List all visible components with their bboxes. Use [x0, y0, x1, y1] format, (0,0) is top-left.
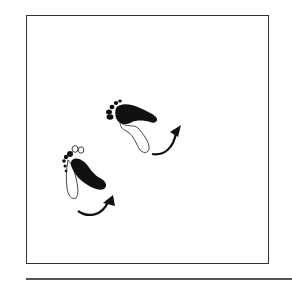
lower-rotation-arrow-icon — [78, 195, 115, 215]
upper-toe-4 — [114, 101, 118, 105]
upper-footprint — [106, 99, 157, 152]
upper-foot-outline — [120, 122, 149, 153]
horizontal-rule — [26, 278, 292, 280]
lower-footprint — [62, 146, 106, 199]
lower-toe-5 — [65, 170, 68, 173]
upper-toe-3 — [110, 105, 115, 109]
upper-toe-1 — [107, 114, 114, 120]
upper-foot-sole — [115, 104, 157, 124]
lower-toe-2 — [64, 155, 68, 159]
lower-toe-3 — [62, 159, 66, 163]
lower-toe-outline-2 — [78, 147, 84, 153]
upper-toe-2 — [106, 110, 112, 115]
upper-toe-5 — [118, 99, 122, 102]
lower-toe-outline-1 — [72, 146, 78, 153]
upper-rotation-arrow-icon — [152, 125, 181, 154]
lower-toe-4 — [64, 165, 67, 168]
footprints-diagram — [0, 0, 292, 284]
